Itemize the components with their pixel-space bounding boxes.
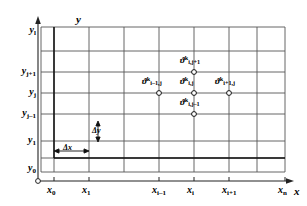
x-tick-xip1: xi+1 <box>222 185 236 197</box>
node-marker-ip1-j <box>227 91 232 96</box>
y-tick-y0: y0 <box>28 163 36 175</box>
node-i-jm1-label: ϑki,j–1 <box>180 97 200 108</box>
y-tick-yjm1: yj–1 <box>22 108 36 120</box>
x-tick-x1: x1 <box>82 185 91 197</box>
node-ip1-j-label: ϑki+1,j <box>215 76 235 87</box>
node-i-j-label: ϑki,j <box>180 76 194 87</box>
origin-marker <box>36 179 41 184</box>
node-marker-im1-j <box>157 91 162 96</box>
delta-y-label: Δy <box>92 127 101 135</box>
node-im1-j-label: ϑki–1,j <box>142 76 162 87</box>
node-marker-i-jp1 <box>192 70 197 75</box>
node-marker-i-j <box>192 91 197 96</box>
grid-lines <box>41 27 285 172</box>
grid-drawing <box>0 0 307 206</box>
x-tick-xn: xn <box>278 185 287 197</box>
x-axis-label: x <box>294 186 300 197</box>
y-tick-y1: y1 <box>28 135 36 147</box>
y-axis-label: y <box>76 14 81 25</box>
finite-difference-grid-figure: y x x0x1xi–1xixi+1xn ylyj+1yjyj–1y1y0 ϑk… <box>0 0 307 206</box>
node-marker-i-jm1 <box>192 112 197 117</box>
y-tick-yj: yj <box>29 87 36 99</box>
x-axis-ticks <box>54 177 285 181</box>
y-tick-yl: yl <box>30 25 36 37</box>
x-tick-x0: x0 <box>47 185 56 197</box>
axis-lines <box>38 22 288 181</box>
x-tick-xim1: xi–1 <box>152 185 166 197</box>
node-i-jp1-label: ϑki,j+1 <box>180 55 200 66</box>
y-tick-yjp1: yj+1 <box>22 66 36 78</box>
delta-x-label: Δx <box>63 144 72 152</box>
x-tick-xi: xi <box>187 185 194 197</box>
